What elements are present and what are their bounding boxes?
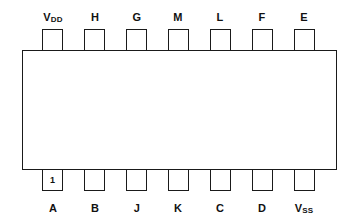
label-subscript: DD: [51, 15, 63, 24]
label-main: L: [217, 11, 224, 23]
bottom-pin-label-c: C: [200, 202, 240, 214]
bottom-pin-label-b: B: [75, 202, 115, 214]
pin-bottom-vss: [294, 170, 315, 191]
label-main: K: [174, 202, 182, 214]
pin-top-g: [126, 29, 147, 50]
ic-pinout-diagram: VDD H G M L F E 1 A B J K C D VSS: [0, 0, 355, 223]
pin1-marker: 1: [50, 175, 55, 185]
bottom-pin-label-d: D: [242, 202, 282, 214]
pin-top-h: [84, 29, 105, 50]
pin-bottom-a: 1: [42, 170, 63, 191]
pin-top-vdd: [42, 29, 63, 50]
label-main: J: [134, 202, 140, 214]
pin-top-e: [294, 29, 315, 50]
pin-bottom-b: [84, 170, 105, 191]
top-pin-label-l: L: [200, 11, 240, 23]
label-main: E: [300, 11, 308, 23]
pin-top-m: [168, 29, 189, 50]
ic-body: [22, 50, 337, 170]
top-pin-label-vdd: VDD: [33, 11, 73, 25]
pin-top-l: [210, 29, 231, 50]
pin-bottom-k: [168, 170, 189, 191]
label-main: H: [91, 11, 99, 23]
top-pin-label-h: H: [75, 11, 115, 23]
top-pin-label-g: G: [117, 11, 157, 23]
label-main: B: [91, 202, 99, 214]
bottom-pin-label-a: A: [33, 202, 73, 214]
label-subscript: SS: [302, 206, 313, 215]
top-pin-label-f: F: [242, 11, 282, 23]
top-pin-label-e: E: [284, 11, 324, 23]
bottom-pin-label-vss: VSS: [284, 202, 324, 216]
pin-bottom-c: [210, 170, 231, 191]
label-main: M: [173, 11, 182, 23]
bottom-pin-label-j: J: [117, 202, 157, 214]
label-main: G: [133, 11, 142, 23]
pin-top-f: [252, 29, 273, 50]
label-main: F: [259, 11, 266, 23]
pin-bottom-d: [252, 170, 273, 191]
top-pin-label-m: M: [158, 11, 198, 23]
bottom-pin-label-k: K: [158, 202, 198, 214]
label-main: V: [43, 11, 51, 23]
label-main: A: [49, 202, 57, 214]
pin-bottom-j: [126, 170, 147, 191]
label-main: D: [258, 202, 266, 214]
label-main: C: [216, 202, 224, 214]
